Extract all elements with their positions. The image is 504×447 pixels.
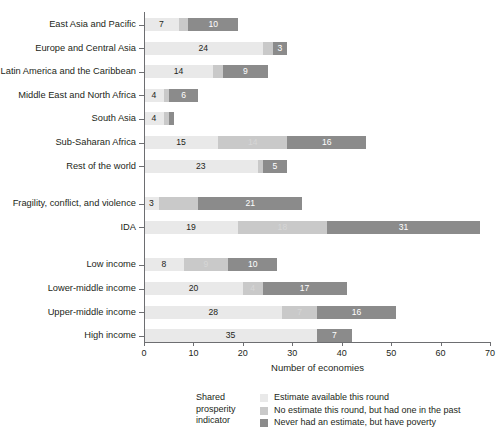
bar-value-label: 28 [144,306,282,319]
y-axis-tick [139,265,144,266]
bar-segment: 4 [144,89,164,102]
bar-segment [169,112,174,125]
bar-segment: 6 [169,89,199,102]
legend-swatch-icon [260,394,268,402]
x-axis-tick-label: 40 [337,348,347,358]
bar-segment: 5 [263,160,288,173]
bar-segment: 28 [144,306,282,319]
y-axis-line [144,12,145,342]
y-axis-tick [139,204,144,205]
bar-value-label: 20 [144,282,243,295]
bar-value-label: 7 [317,329,352,342]
y-axis-tick [139,336,144,337]
bar-value-label: 23 [144,160,258,173]
bar-value-label: 9 [223,65,267,78]
x-axis-tick-label: 60 [436,348,446,358]
bar-segment [263,42,273,55]
bar-segment: 31 [327,221,480,234]
bar-value-label: 10 [188,18,237,31]
x-axis-tick-label: 50 [386,348,396,358]
bar-segment: 3 [273,42,288,55]
bar-segment: 23 [144,160,258,173]
bar-segment: 8 [144,258,184,271]
bar-value-label: 7 [282,306,317,319]
legend-title-line-1: Shared [196,392,250,404]
bar-segment: 16 [287,136,366,149]
category-label: Latin America and the Caribbean [0,65,136,78]
bar-segment: 24 [144,42,263,55]
chart-container: East Asia and PacificEurope and Central … [0,0,504,447]
bar-segment [213,65,223,78]
bar-value-label: 6 [169,89,199,102]
bar-segment: 14 [218,136,287,149]
bar-segment: 35 [144,329,317,342]
y-axis-tick [139,166,144,167]
x-axis-tick-label: 10 [188,348,198,358]
x-axis-tick [342,342,343,346]
legend-label: No estimate this round, but had one in t… [274,405,461,417]
bar-value-label: 3 [273,42,288,55]
bar-segment [179,18,189,31]
bar-value-label: 16 [317,306,396,319]
bar-value-label: 3 [144,197,159,210]
legend-swatch-icon [260,407,268,415]
bar-value-label: 21 [198,197,302,210]
y-axis-tick [139,143,144,144]
y-axis-tick [139,289,144,290]
bar-segment: 3 [144,197,159,210]
x-axis-tick-label: 30 [287,348,297,358]
category-label: Lower-middle income [0,282,136,295]
bar-value-label: 35 [144,329,317,342]
bar-segment: 7 [282,306,317,319]
bar-segment: 21 [198,197,302,210]
bar-segment: 7 [317,329,352,342]
x-axis-tick [243,342,244,346]
bar-value-label: 4 [243,282,263,295]
bar-segment: 18 [238,221,327,234]
category-label: High income [0,329,136,342]
legend-label: Estimate available this round [274,392,389,404]
bar-value-label: 31 [327,221,480,234]
y-axis-tick [139,312,144,313]
category-label: Middle East and North Africa [0,89,136,102]
bar-segment: 20 [144,282,243,295]
bar-segment: 4 [243,282,263,295]
bar-segment: 7 [144,18,179,31]
bar-segment: 10 [228,258,277,271]
x-axis-tick-label: 20 [238,348,248,358]
y-axis-tick [139,119,144,120]
legend-swatch-icon [260,419,268,427]
legend-label: Never had an estimate, but have poverty [274,417,436,429]
category-label: Europe and Central Asia [0,42,136,55]
bar-segment: 17 [263,282,347,295]
bar-value-label: 17 [263,282,347,295]
x-axis-tick [490,342,491,346]
bar-value-label: 5 [263,160,288,173]
x-axis-title: Number of economies [144,362,491,373]
bar-value-label: 14 [218,136,287,149]
legend-title: Shared prosperity indicator [196,392,250,427]
bar-segment: 14 [144,65,213,78]
category-label: South Asia [0,112,136,125]
x-axis-tick [193,342,194,346]
y-axis-tick [139,227,144,228]
y-axis-tick [139,25,144,26]
bar-value-label: 24 [144,42,263,55]
bar-value-label: 19 [144,221,238,234]
bar-segment: 4 [144,112,164,125]
x-axis-line [144,342,491,343]
x-axis-tick [391,342,392,346]
bar-segment [159,197,199,210]
bar-value-label: 4 [144,89,164,102]
category-label: Low income [0,258,136,271]
bar-value-label: 16 [287,136,366,149]
bar-segment: 16 [317,306,396,319]
category-label: Fragility, conflict, and violence [0,197,136,210]
x-axis-tick-label: 70 [485,348,495,358]
bar-segment: 19 [144,221,238,234]
x-axis-tick [144,342,145,346]
bar-value-label: 15 [144,136,218,149]
bar-segment: 9 [184,258,228,271]
bar-value-label: 14 [144,65,213,78]
bar-value-label: 8 [144,258,184,271]
